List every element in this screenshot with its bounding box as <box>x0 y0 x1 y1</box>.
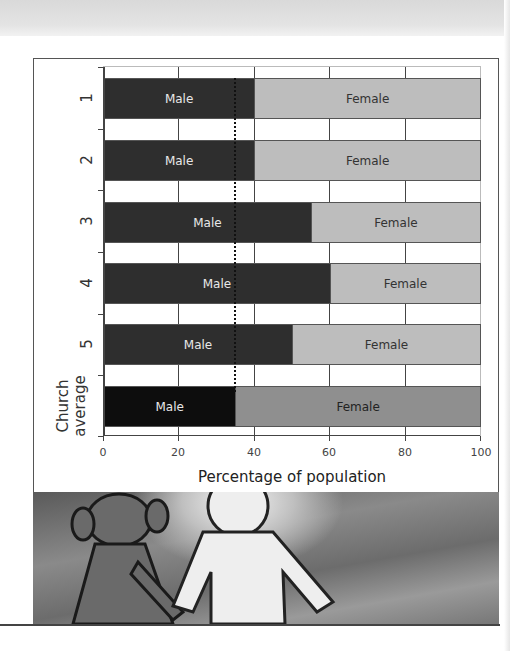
page-edge <box>504 0 510 651</box>
x-tick-label: 80 <box>385 446 425 459</box>
church-label-line1: Church <box>55 366 72 446</box>
paper-dolls-illustration <box>33 492 499 624</box>
bar-segment-female: Female <box>330 263 481 304</box>
bar-segment-female: Female <box>235 386 481 427</box>
x-tick-label: 40 <box>234 446 274 459</box>
bar-segment-female: Female <box>254 140 481 181</box>
x-tick-label: 100 <box>461 446 501 459</box>
paper-dolls-photo <box>33 492 499 624</box>
bar-segment-female: Female <box>311 202 481 243</box>
x-tick-label: 0 <box>83 446 123 459</box>
church-label-line2: average <box>72 366 89 446</box>
bar-row-3: Male Female <box>103 202 481 243</box>
bar-segment-female: Female <box>292 324 481 365</box>
bar-segment-male: Male <box>103 324 292 365</box>
bar-segment-male: Male <box>103 78 254 119</box>
bar-row-5: Male Female <box>103 324 481 365</box>
bar-row-2: Male Female <box>103 140 481 181</box>
x-tick <box>480 436 481 441</box>
page-rule <box>0 624 500 626</box>
gridline-40 <box>254 67 255 436</box>
gridline-80 <box>405 67 406 436</box>
x-axis <box>103 435 480 437</box>
plot-area: Male Female Male Female Male Female Male… <box>103 66 481 436</box>
x-tick <box>178 436 179 441</box>
y-axis <box>103 67 105 436</box>
bar-row-church-average: Male Female <box>103 386 481 427</box>
x-axis-title: Percentage of population <box>103 468 481 486</box>
bar-segment-female: Female <box>254 78 481 119</box>
category-label-church-average: Church average <box>55 366 89 446</box>
x-tick <box>103 436 104 441</box>
bar-segment-male: Male <box>103 263 330 304</box>
x-tick <box>329 436 330 441</box>
x-tick <box>405 436 406 441</box>
category-label-1: 1 <box>78 83 96 113</box>
category-label-3: 3 <box>78 206 96 236</box>
gridline-60 <box>329 67 330 436</box>
bar-row-1: Male Female <box>103 78 481 119</box>
bar-segment-male: Male <box>103 386 235 427</box>
bar-segment-male: Male <box>103 202 311 243</box>
x-tick <box>254 436 255 441</box>
bar-row-4: Male Female <box>103 263 481 304</box>
bar-segment-male: Male <box>103 140 254 181</box>
category-label-5: 5 <box>78 329 96 359</box>
page-header-band <box>0 0 510 36</box>
average-reference-line <box>234 78 236 392</box>
category-label-2: 2 <box>78 145 96 175</box>
category-label-4: 4 <box>78 268 96 298</box>
x-tick-label: 60 <box>309 446 349 459</box>
x-tick-label: 20 <box>158 446 198 459</box>
gridline-20 <box>178 67 179 436</box>
